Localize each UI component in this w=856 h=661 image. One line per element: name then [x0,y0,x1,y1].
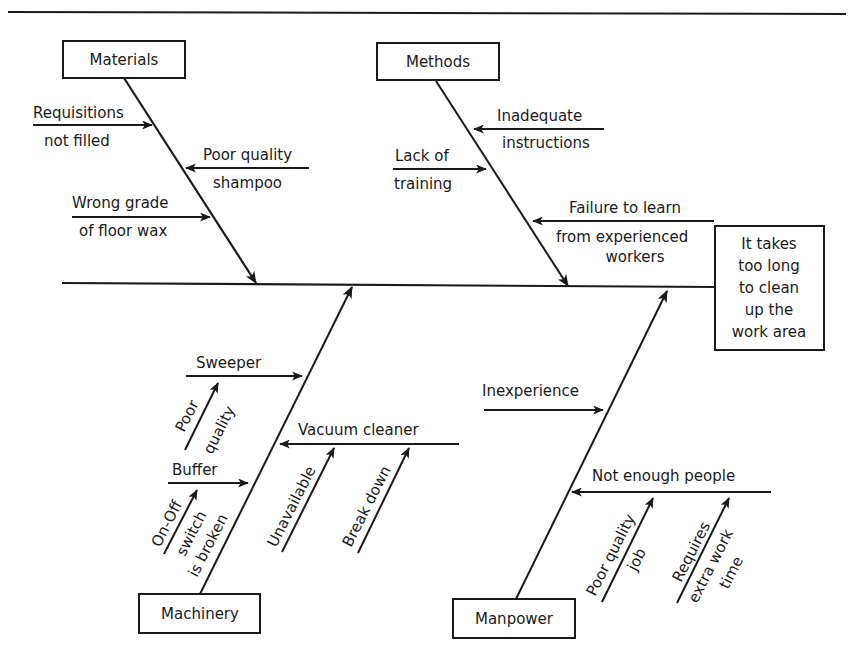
effect-box: It takes too long to clean up the work a… [715,226,824,350]
cause-label-inexperience: Inexperience [482,382,579,400]
machinery-label: Machinery [161,605,239,623]
cause-label-training-1: Lack of [395,147,449,165]
effect-line-4: up the [745,301,793,319]
sub-cause-label-poor: Poor [172,396,203,434]
cause-label-shampoo-1: Poor quality [203,146,292,164]
manpower-label: Manpower [475,610,554,628]
sub-cause-label-quality: quality [200,403,239,457]
cause-label-training-2: training [394,175,452,193]
cause-label-instructions-1: Inadequate [497,107,582,125]
cause-label-instructions-2: instructions [502,134,590,152]
category-materials: Materials Requisitions not filled Poor q… [33,41,309,283]
category-machinery: Machinery Sweeper Poor quality Buffer On… [139,287,459,633]
category-methods: Methods Inadequate instructions Lack of … [377,43,714,286]
effect-line-5: work area [732,323,807,341]
fishbone-diagram: It takes too long to clean up the work a… [0,0,856,661]
top-rule [8,12,846,14]
cause-label-floor-wax-1: Wrong grade [72,194,169,212]
cause-label-failure-2: from experienced [556,228,688,246]
cause-label-buffer: Buffer [172,461,218,479]
effect-line-3: to clean [739,279,799,297]
cause-label-requisitions-1: Requisitions [33,104,124,122]
cause-label-failure-3: workers [606,248,665,266]
cause-label-requisitions-2: not filled [44,132,110,150]
cause-label-floor-wax-2: of floor wax [79,222,167,240]
cause-label-vacuum: Vacuum cleaner [298,421,419,439]
cause-label-shampoo-2: shampoo [213,174,282,192]
effect-line-2: too long [738,257,799,275]
spine [62,283,715,287]
methods-label: Methods [406,53,470,71]
sub-cause-label-unavailable: Unavailable [264,463,320,550]
materials-label: Materials [90,51,159,69]
effect-line-1: It takes [741,235,797,253]
cause-label-people: Not enough people [592,467,735,485]
cause-label-sweeper: Sweeper [196,354,262,372]
cause-label-failure-1: Failure to learn [569,199,681,217]
